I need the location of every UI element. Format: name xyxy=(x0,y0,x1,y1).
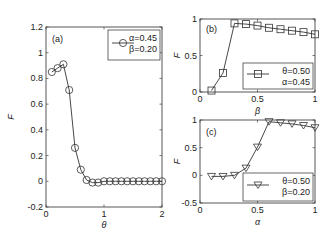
panel-label: (b) xyxy=(206,24,217,34)
y-tick-label: 0 xyxy=(38,176,43,186)
y-tick-label: 0.5 xyxy=(184,143,197,153)
chart-panel-b: 00.5100.51βF(b)θ=0.50α=0.45 xyxy=(172,14,319,116)
data-line xyxy=(52,64,162,182)
legend-entry: θ=0.50 xyxy=(282,176,310,186)
legend-entry: β=0.20 xyxy=(282,187,310,197)
legend-entry: β=0.20 xyxy=(129,44,157,54)
y-tick-label: 0.2 xyxy=(30,151,43,161)
y-tick-label: -0.5 xyxy=(181,198,197,208)
panel-label: (a) xyxy=(52,34,63,44)
x-tick-label: 0.5 xyxy=(251,94,264,104)
data-line xyxy=(212,122,316,177)
chart-panel-a: 012-0.200.20.40.60.811.2θF(a)α=0.45β=0.2… xyxy=(6,22,166,230)
x-tick-label: 1 xyxy=(312,205,317,215)
x-tick-label: 0 xyxy=(197,205,202,215)
y-axis-label: F xyxy=(172,158,182,164)
x-axis-label: θ xyxy=(102,220,107,230)
y-tick-label: 1 xyxy=(38,48,43,58)
y-tick-label: 0 xyxy=(192,87,197,97)
x-tick-label: 0 xyxy=(197,94,202,104)
y-axis-label: F xyxy=(6,114,16,120)
figure: 012-0.200.20.40.60.811.2θF(a)α=0.45β=0.2… xyxy=(0,0,333,239)
legend: θ=0.50β=0.20 xyxy=(243,173,313,201)
legend-entry: θ=0.50 xyxy=(282,66,310,76)
y-tick-label: 0.4 xyxy=(30,125,43,135)
x-tick-label: 0 xyxy=(43,209,48,219)
chart-panel-c: 00.51-0.500.51αF(c)θ=0.50β=0.20 xyxy=(172,115,319,227)
x-tick-label: 1 xyxy=(101,209,106,219)
x-tick-label: 0.5 xyxy=(251,205,264,215)
y-axis-label: F xyxy=(172,52,182,58)
legend: α=0.45β=0.20 xyxy=(108,30,160,60)
y-tick-label: 1 xyxy=(192,115,197,125)
y-tick-label: -0.2 xyxy=(27,202,43,212)
y-tick-label: 0.5 xyxy=(184,51,197,61)
y-tick-label: 0 xyxy=(192,170,197,180)
y-tick-label: 0.8 xyxy=(30,73,43,83)
x-axis-label: β xyxy=(254,106,260,116)
legend-entry: α=0.45 xyxy=(282,77,310,87)
panel-label: (c) xyxy=(206,127,217,137)
y-tick-label: 0.6 xyxy=(30,99,43,109)
legend: θ=0.50α=0.45 xyxy=(243,63,313,89)
y-tick-label: 1 xyxy=(192,14,197,24)
legend-entry: α=0.45 xyxy=(129,33,157,43)
x-axis-label: α xyxy=(255,217,261,227)
x-tick-label: 1 xyxy=(312,94,317,104)
x-tick-label: 2 xyxy=(159,209,164,219)
y-tick-label: 1.2 xyxy=(30,22,43,32)
